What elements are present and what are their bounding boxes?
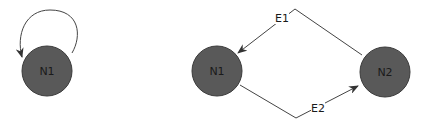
edge-e2[interactable] — [240, 85, 358, 118]
edge-label-e2: E2 — [311, 102, 325, 115]
diagram-canvas: N1 E1 E2 N1 N2 — [0, 0, 425, 126]
node-n1-left[interactable]: N1 — [22, 46, 72, 96]
node-label: N2 — [377, 66, 392, 79]
edge-label-e1: E1 — [275, 12, 289, 25]
self-loop-diagram: N1 — [20, 10, 77, 96]
two-node-diagram: E1 E2 N1 N2 — [192, 9, 410, 118]
node-n2-right[interactable]: N2 — [360, 47, 410, 97]
node-label: N1 — [39, 65, 54, 78]
node-n1-right[interactable]: N1 — [192, 46, 242, 96]
node-label: N1 — [209, 65, 224, 78]
edge-e1[interactable] — [238, 9, 362, 55]
